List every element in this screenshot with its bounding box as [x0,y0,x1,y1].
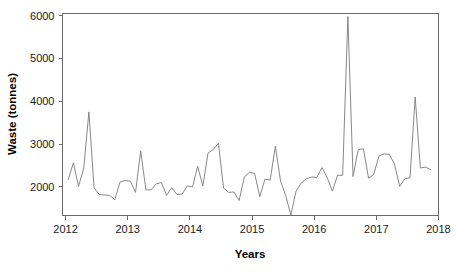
waste-time-series-chart: 20003000400050006000 2012201320142015201… [0,0,459,275]
y-tick-label: 4000 [30,95,54,107]
y-tick-label: 2000 [30,181,54,193]
x-tick-label: 2013 [116,223,140,235]
y-axis-tick-marks [59,16,63,187]
x-tick-label: 2017 [364,223,388,235]
x-tick-label: 2018 [426,223,450,235]
y-axis-tick-labels: 20003000400050006000 [30,10,54,193]
chart-figure: 20003000400050006000 2012201320142015201… [0,0,459,275]
x-tick-label: 2014 [178,223,202,235]
x-tick-label: 2015 [240,223,264,235]
y-tick-label: 5000 [30,52,54,64]
x-axis-tick-marks [66,216,439,220]
y-axis-title: Waste (tonnes) [6,73,18,155]
y-tick-label: 6000 [30,10,54,22]
x-tick-label: 2016 [302,223,326,235]
x-axis-title: Years [235,248,266,260]
y-tick-label: 3000 [30,138,54,150]
x-tick-label: 2012 [53,223,77,235]
waste-series-line [68,17,431,216]
x-axis-tick-labels: 2012201320142015201620172018 [53,223,450,235]
